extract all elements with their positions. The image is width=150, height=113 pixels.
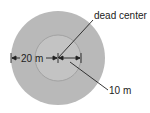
- outer-radius-label: 20 m: [21, 53, 43, 64]
- dead-center-label: dead center: [94, 10, 147, 21]
- target-diagram: 20 m dead center 10 m: [0, 0, 150, 113]
- inner-radius-label: 10 m: [109, 85, 131, 96]
